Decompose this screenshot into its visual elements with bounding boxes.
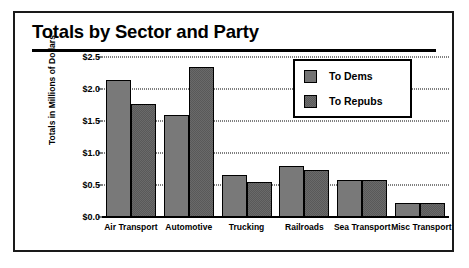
bar <box>304 170 329 217</box>
bar-group <box>164 57 214 217</box>
legend-entry-to-repubs: To Repubs <box>304 94 382 108</box>
x-axis-category-label: Automotive <box>160 222 218 232</box>
y-axis-tick-label: $1.5 <box>66 116 100 126</box>
legend-entry-to-dems: To Dems <box>304 69 373 83</box>
bar <box>222 175 247 217</box>
bar <box>279 166 304 217</box>
bar <box>189 67 214 217</box>
legend-label-to-dems: To Dems <box>329 70 373 82</box>
bar <box>362 180 387 217</box>
x-axis-category-labels: Air TransportAutomotiveTruckingRailroads… <box>102 222 449 236</box>
chart-frame: Totals by Sector and Party Totals in Mil… <box>13 11 454 252</box>
y-axis-tick-label: $2.5 <box>66 52 100 62</box>
x-axis-category-label: Trucking <box>218 222 276 232</box>
bar <box>395 203 420 217</box>
x-axis-category-label: Sea Transport <box>333 222 391 232</box>
bar <box>164 115 189 217</box>
y-axis-tick-label: $0.5 <box>66 180 100 190</box>
y-axis-tick-labels: $0.0$0.5$1.0$1.5$2.0$2.5 <box>64 57 100 217</box>
legend-swatch-icon-to-dems <box>304 70 317 83</box>
y-axis-tick-label: $1.0 <box>66 148 100 158</box>
bar <box>131 104 156 217</box>
chart-legend: To Dems To Repubs <box>293 59 412 118</box>
legend-label-to-repubs: To Repubs <box>329 95 382 107</box>
bar <box>420 203 445 217</box>
bar-group <box>106 57 156 217</box>
bar <box>106 80 131 217</box>
legend-swatch-icon-to-repubs <box>304 95 317 108</box>
y-axis-title: Totals in Millions of Dollars <box>47 35 57 145</box>
bar <box>337 180 362 217</box>
y-axis-tick-label: $0.0 <box>66 212 100 222</box>
y-axis-tick-label: $2.0 <box>66 84 100 94</box>
x-axis-category-label: Railroads <box>276 222 334 232</box>
chart-title: Totals by Sector and Party <box>32 21 259 43</box>
x-axis-category-label: Air Transport <box>102 222 160 232</box>
bar-group <box>222 57 272 217</box>
x-axis-category-label: Misc Transport <box>391 222 449 232</box>
bar <box>247 182 272 217</box>
